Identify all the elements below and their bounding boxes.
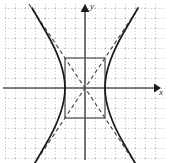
x-axis-label: x	[159, 88, 163, 97]
graph-canvas	[0, 0, 169, 163]
y-axis-label: y	[90, 2, 94, 11]
hyperbola-graph-figure: y x	[0, 0, 169, 163]
